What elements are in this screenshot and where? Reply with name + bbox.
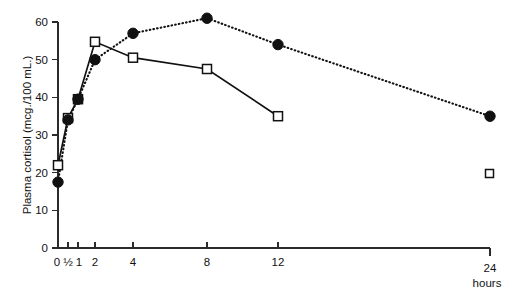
data-point-circle-0.5 <box>63 115 73 125</box>
data-point-circle-24 <box>485 111 495 121</box>
x-tick-label-2: 2 <box>92 256 98 268</box>
data-point-square-24-detached <box>486 170 494 178</box>
data-point-circle-1 <box>73 94 83 104</box>
y-tick-label-10: 10 <box>35 204 48 216</box>
y-tick-label-60: 60 <box>35 16 48 28</box>
data-point-square-12 <box>274 112 283 121</box>
data-point-square-4 <box>129 53 138 62</box>
plasma-cortisol-line-chart: 0 10 20 30 40 50 60 0 ½ 1 2 4 8 12 24 ho… <box>0 0 513 295</box>
y-axis-ticks <box>52 22 58 248</box>
x-tick-label-12: 12 <box>272 256 285 268</box>
y-axis-title: Plasma cortisol (mcg./100 mL.) <box>21 56 33 215</box>
data-point-circle-2 <box>90 55 100 65</box>
x-tick-label-4: 4 <box>130 256 137 268</box>
x-tick-label-1: 1 <box>76 256 82 268</box>
data-point-circle-0 <box>53 177 63 187</box>
data-point-square-2 <box>91 37 100 46</box>
data-point-square-0 <box>54 161 63 170</box>
series-open-square-markers <box>54 37 494 177</box>
series-filled-circle-markers <box>53 13 495 187</box>
data-point-circle-8 <box>202 13 212 23</box>
x-tick-label-8: 8 <box>204 256 210 268</box>
data-point-circle-12 <box>273 39 283 49</box>
x-tick-label-24: 24 <box>484 262 497 274</box>
x-axis-ticks <box>58 242 490 256</box>
x-tick-label-0.5: ½ <box>63 256 73 268</box>
x-axis-title: hours <box>473 277 502 289</box>
y-tick-label-0: 0 <box>42 242 48 254</box>
data-point-square-8 <box>203 65 212 74</box>
y-tick-label-50: 50 <box>35 54 48 66</box>
x-tick-label-0: 0 <box>54 256 60 268</box>
y-tick-label-40: 40 <box>35 91 48 103</box>
y-tick-label-30: 30 <box>35 129 48 141</box>
data-point-circle-4 <box>128 28 138 38</box>
y-tick-label-20: 20 <box>35 167 48 179</box>
chart-figure: 0 10 20 30 40 50 60 0 ½ 1 2 4 8 12 24 ho… <box>0 0 513 295</box>
